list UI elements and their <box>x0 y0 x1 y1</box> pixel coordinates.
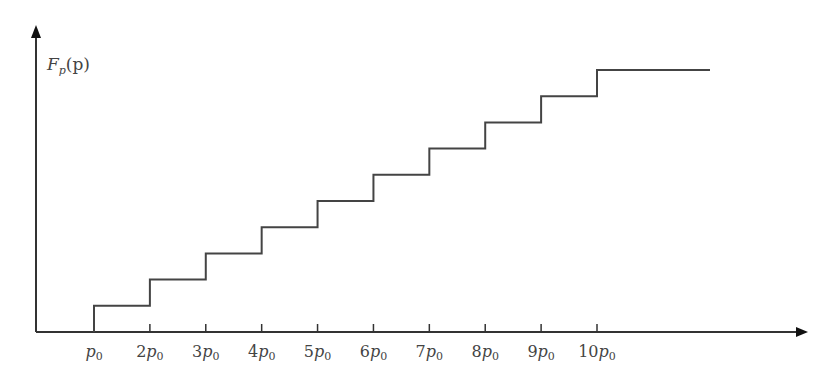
x-tick-labels: p02p03p04p05p06p07p08p09p010p0 <box>85 342 615 363</box>
x-tick-label: 8p0 <box>472 342 499 363</box>
step-chart: Fp(p) p02p03p04p05p06p07p08p09p010p0 <box>0 0 828 377</box>
x-tick-label: 2p0 <box>136 342 163 363</box>
x-tick-label: 3p0 <box>192 342 219 363</box>
x-tick-label: 5p0 <box>304 342 331 363</box>
x-tick-label: 6p0 <box>360 342 387 363</box>
x-ticks <box>150 324 597 332</box>
step-function-line <box>94 70 710 332</box>
axes <box>31 25 808 337</box>
y-axis-arrow-icon <box>31 25 41 38</box>
x-tick-label: 4p0 <box>248 342 275 363</box>
x-tick-label: p0 <box>85 342 102 363</box>
x-tick-label: 7p0 <box>416 342 443 363</box>
y-axis-label: Fp(p) <box>46 54 90 77</box>
x-tick-label: 10p0 <box>578 342 616 363</box>
x-tick-label: 9p0 <box>527 342 554 363</box>
x-axis-arrow-icon <box>796 327 808 337</box>
